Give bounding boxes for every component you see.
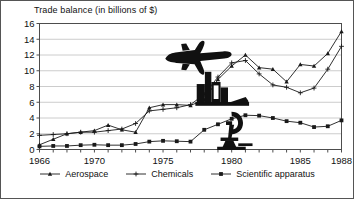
legend-item-scientific-apparatus[interactable]: Scientific apparatus [210,169,315,179]
svg-text:1966: 1966 [29,155,50,166]
series-aerospace [37,29,343,146]
legend-item-aerospace[interactable]: Aerospace [39,169,108,179]
microscope-icon [217,112,252,150]
y-tick-labels: 0246810121416 [24,18,35,155]
svg-text:1970: 1970 [84,155,105,166]
gridlines [40,24,342,134]
svg-text:0: 0 [29,144,34,155]
legend-item-chemicals[interactable]: Chemicals [125,169,193,179]
x-tick-labels: 196619701975198019851988 [29,155,352,166]
legend-item-label: Scientific apparatus [236,170,315,179]
square-marker-icon [210,169,232,179]
series-scientific-apparatus [38,113,344,148]
plus-marker-icon [125,169,147,179]
chart-figure: Trade balance (in billions of $) 0246810… [0,0,354,199]
svg-text:1988: 1988 [331,155,352,166]
svg-text:4: 4 [29,112,34,123]
chart-legend: AerospaceChemicalsScientific apparatus [1,169,353,179]
legend-item-label: Chemicals [151,170,193,179]
factory-icon [195,72,249,106]
svg-text:16: 16 [24,18,35,29]
svg-text:14: 14 [24,34,35,45]
airplane-icon [165,41,231,75]
svg-text:6: 6 [29,97,34,108]
svg-text:2: 2 [29,128,34,139]
svg-text:12: 12 [24,49,35,60]
svg-text:8: 8 [29,81,34,92]
triangle-marker-icon [39,169,61,179]
svg-text:1975: 1975 [152,155,173,166]
svg-text:1985: 1985 [290,155,311,166]
svg-text:10: 10 [24,65,35,76]
legend-item-label: Aerospace [65,170,108,179]
svg-text:1980: 1980 [221,155,242,166]
data-series-group [37,29,344,148]
